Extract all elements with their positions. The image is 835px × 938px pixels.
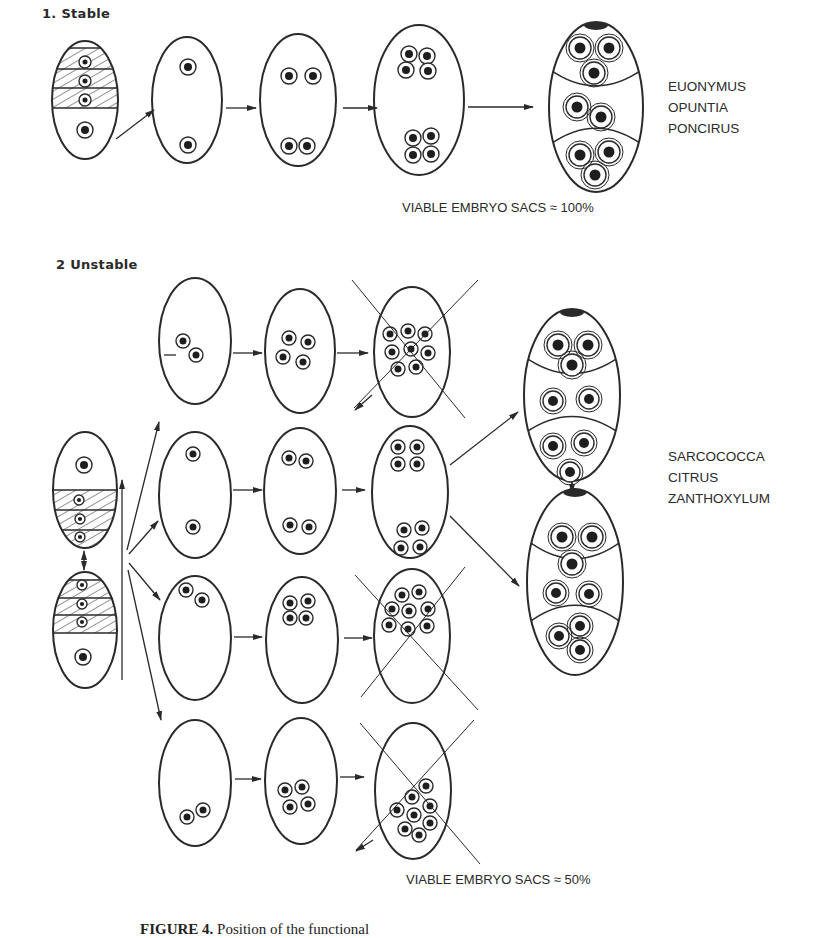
embryo-sac-u-r3-c3 — [374, 569, 450, 703]
embryo-sac-u-megaspore-a — [53, 432, 117, 550]
embryo-sac-u-r3-c1 — [159, 576, 231, 700]
embryo-sac-u-mature-a — [524, 307, 620, 485]
arrow-icon — [116, 110, 154, 139]
arrow-icon — [356, 840, 373, 851]
embryo-sac-s-8n — [374, 25, 464, 175]
species-list-unstable: SARCOCOCCA CITRUS ZANTHOXYLUM — [668, 446, 770, 509]
caption-text: Position of the functional — [217, 921, 369, 937]
species-name: EUONYMUS — [668, 76, 746, 97]
caption-label: FIGURE 4. — [140, 921, 213, 937]
embryo-sac-u-r1-c3 — [374, 287, 450, 417]
embryo-sac-u-r2-c2 — [264, 428, 336, 554]
embryo-sac-s-4n — [260, 34, 336, 166]
viable-label-unstable: VIABLE EMBRYO SACS ≈ 50% — [406, 872, 591, 887]
species-name: OPUNTIA — [668, 97, 746, 118]
embryo-sac-u-r4-c2 — [265, 718, 337, 844]
embryo-sac-u-r3-c2 — [266, 577, 338, 703]
arrow-icon — [128, 570, 161, 720]
embryo-sac-u-mature-b — [527, 487, 623, 675]
species-name: ZANTHOXYLUM — [668, 488, 770, 509]
embryo-sac-s-2n — [152, 37, 222, 163]
embryo-sac-u-r4-c3 — [375, 723, 451, 859]
embryo-sac-s-mature — [549, 20, 643, 192]
embryo-sac-u-r4-c1 — [159, 720, 231, 846]
arrow-icon — [355, 395, 372, 410]
species-name: CITRUS — [668, 467, 770, 488]
embryo-sac-s-megaspore — [52, 41, 118, 159]
section-heading-stable: 1. Stable — [42, 6, 110, 21]
shapes-layer — [52, 20, 643, 864]
viable-label-stable: VIABLE EMBRYO SACS ≈ 100% — [402, 200, 594, 215]
species-name: SARCOCOCCA — [668, 446, 770, 467]
embryo-sac-u-r2-c3 — [372, 426, 448, 558]
embryo-sac-u-r2-c1 — [159, 432, 231, 558]
species-name: PONCIRUS — [668, 118, 746, 139]
figure-caption: FIGURE 4. Position of the functional — [140, 921, 369, 938]
embryo-sac-u-r1-c1 — [159, 278, 231, 404]
embryo-sac-u-megaspore-b — [53, 572, 117, 688]
section-heading-unstable: 2 Unstable — [56, 257, 138, 272]
species-list-stable: EUONYMUS OPUNTIA PONCIRUS — [668, 76, 746, 139]
embryo-sac-u-r1-c2 — [265, 289, 335, 413]
arrow-icon — [450, 516, 519, 586]
arrow-icon — [450, 412, 518, 465]
arrow-icon — [127, 422, 159, 550]
